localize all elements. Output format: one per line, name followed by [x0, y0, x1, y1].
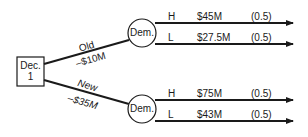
outcome-new-l-probability: (0.5) [251, 109, 272, 120]
outcome-old-h-state: H [168, 11, 175, 22]
outcome-old-h-probability: (0.5) [251, 11, 272, 22]
decision-node-label-line1: Dec. [17, 60, 44, 71]
outcome-old-l-probability: (0.5) [251, 32, 272, 43]
chance-node-2-label: Dem. [128, 103, 156, 114]
outcome-new-l-value: $43M [197, 109, 222, 120]
decision-node-label: Dec. 1 [17, 60, 44, 82]
outcome-new-h-state: H [168, 88, 175, 99]
outcome-new-l-state: L [168, 109, 174, 120]
chance-node-1-label: Dem. [128, 27, 156, 38]
outcome-old-h-value: $45M [197, 11, 222, 22]
outcome-new-h-value: $75M [197, 88, 222, 99]
outcome-old-l-value: $27.5M [197, 32, 230, 43]
outcome-new-h-probability: (0.5) [251, 88, 272, 99]
decision-tree-diagram: Dec. 1 Dem. Dem. Old –$10M New –$35M H $… [0, 0, 308, 137]
decision-node-label-line2: 1 [17, 71, 44, 82]
outcome-old-l-state: L [168, 32, 174, 43]
